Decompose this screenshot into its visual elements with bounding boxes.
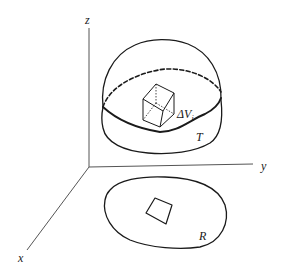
region-area-element (146, 198, 172, 224)
x-axis-label: x (17, 251, 24, 265)
volume-element-label: ΔVi (176, 107, 194, 123)
y-axis-label: y (260, 159, 267, 173)
coordinate-axes (27, 28, 253, 250)
delta-v-subscript: i (191, 114, 193, 123)
solid-outline (102, 40, 222, 154)
y-axis (89, 164, 253, 167)
region-outline (104, 177, 226, 248)
volume-element-diagram: z y x ΔVi T (0, 0, 283, 277)
region-r (104, 177, 226, 248)
solid-back-rim (103, 69, 221, 107)
diagram-canvas: z y x ΔVi T (0, 0, 283, 277)
solid-label: T (196, 130, 204, 144)
x-axis (27, 167, 89, 250)
z-axis-label: z (84, 13, 90, 27)
solid-t (102, 40, 222, 154)
volume-element-cube (143, 84, 174, 127)
region-label: R (198, 229, 207, 243)
